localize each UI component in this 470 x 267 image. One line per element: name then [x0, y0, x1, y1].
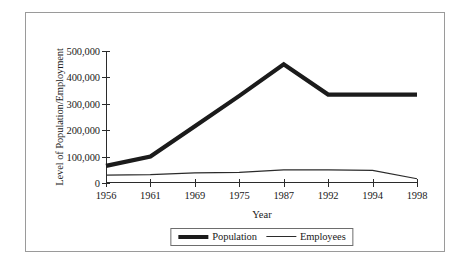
series-layer — [106, 51, 417, 183]
x-tick-label: 1987 — [273, 190, 294, 201]
y-tick-label: 0 — [95, 178, 100, 189]
chart-legend: PopulationEmployees — [170, 228, 353, 246]
y-tick-label: 300,000 — [67, 98, 100, 109]
x-tick-label: 1956 — [96, 190, 117, 201]
x-tick — [417, 179, 418, 187]
legend-entry: Population — [178, 231, 257, 242]
series-line-population — [106, 64, 417, 166]
plot-area: 0100,000200,000300,000400,000500,000 195… — [106, 51, 417, 183]
y-axis-title: Level of Population/Employment — [54, 48, 65, 186]
y-tick-label: 100,000 — [67, 151, 100, 162]
x-tick-label: 1975 — [229, 190, 250, 201]
y-tick-label: 500,000 — [67, 46, 100, 57]
legend-swatch-population — [178, 235, 208, 239]
legend-label-population: Population — [212, 231, 257, 242]
x-axis-title: Year — [252, 209, 271, 220]
x-tick-label: 1961 — [140, 190, 161, 201]
legend-label-employees: Employees — [300, 231, 346, 242]
x-tick-label: 1998 — [407, 190, 428, 201]
series-line-employees — [106, 170, 417, 179]
chart-frame: Level of Population/Employment Year 0100… — [25, 12, 445, 252]
x-tick-label: 1992 — [318, 190, 339, 201]
y-tick-label: 200,000 — [67, 125, 100, 136]
x-tick-label: 1969 — [185, 190, 206, 201]
x-tick-label: 1994 — [362, 190, 383, 201]
legend-swatch-employees — [266, 236, 296, 237]
legend-entry: Employees — [266, 231, 346, 242]
y-tick-label: 400,000 — [67, 72, 100, 83]
